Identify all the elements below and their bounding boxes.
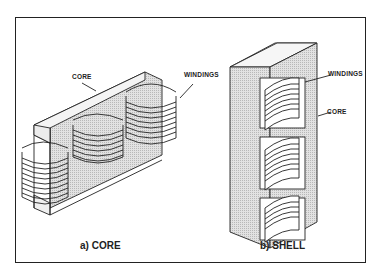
shell-type-transformer — [230, 43, 331, 248]
caption-shell: b) SHELL — [260, 240, 305, 251]
windings-label-b: WINDINGS — [328, 70, 363, 77]
core-type-transformer — [22, 72, 193, 215]
windings-label-a: WINDINGS — [184, 71, 219, 78]
shell-windings — [265, 78, 299, 242]
caption-core: a) CORE — [80, 240, 121, 251]
core-label-b: CORE — [327, 108, 347, 115]
core-label-a: CORE — [72, 73, 92, 80]
transformer-diagram — [0, 0, 381, 277]
